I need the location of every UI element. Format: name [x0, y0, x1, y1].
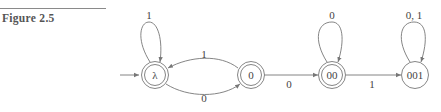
edge-label-s0-lambda: 1 — [201, 48, 207, 60]
state-label-s001: 001 — [407, 69, 424, 81]
edge-lambda-lambda — [141, 22, 161, 62]
automaton-diagram: 1 1 0 0 0 1 0, 1 λ 0 00 001 — [0, 0, 441, 112]
edge-label-s00-s001: 1 — [369, 78, 375, 90]
state-label-lambda: λ — [152, 69, 158, 81]
state-s0: 0 — [238, 62, 265, 89]
edge-label-lambda-s0: 0 — [201, 92, 207, 104]
edge-label-lambda-lambda: 1 — [146, 9, 152, 21]
state-lambda: λ — [142, 62, 169, 89]
state-s00: 00 — [319, 62, 346, 89]
edge-s001-s001 — [401, 22, 425, 62]
edge-label-s0-s00: 0 — [286, 78, 292, 90]
state-label-s0: 0 — [248, 69, 254, 81]
edge-s00-s00 — [318, 22, 342, 62]
state-label-s00: 00 — [327, 69, 339, 81]
edge-label-s00-s00: 0 — [329, 9, 335, 21]
edge-label-s001-s001: 0, 1 — [406, 9, 423, 21]
state-s001: 001 — [402, 62, 429, 89]
